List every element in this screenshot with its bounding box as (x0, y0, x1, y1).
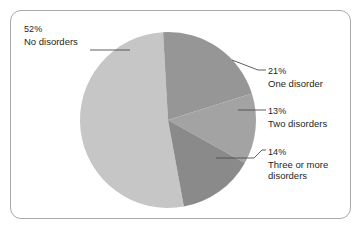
callout-name-one-disorder: One disorder (268, 78, 323, 90)
pie-chart-figure: 52% No disorders 21% One disorder 13% Tw… (0, 0, 362, 235)
callout-name-three-or-more-disorders-line2: disorders (268, 170, 328, 182)
callout-percent-two-disorders: 13% (268, 106, 327, 118)
callout-percent-no-disorders: 52% (24, 24, 78, 36)
callout-label-one-disorder: 21% One disorder (268, 66, 323, 89)
callout-name-three-or-more-disorders-line1: Three or more (268, 159, 328, 171)
callout-name-no-disorders: No disorders (24, 36, 78, 48)
callout-percent-three-or-more-disorders: 14% (268, 147, 328, 159)
callout-label-three-or-more-disorders: 14% Three or more disorders (268, 147, 328, 182)
pie-slices (80, 32, 256, 208)
callout-name-two-disorders: Two disorders (268, 118, 327, 130)
callout-label-no-disorders: 52% No disorders (24, 24, 78, 47)
callout-percent-one-disorder: 21% (268, 66, 323, 78)
callout-label-two-disorders: 13% Two disorders (268, 106, 327, 129)
